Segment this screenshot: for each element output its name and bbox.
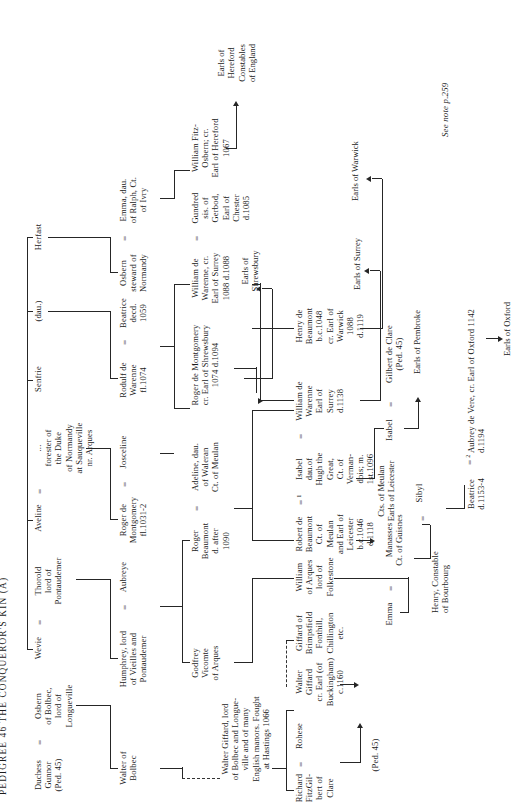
descent-line <box>76 705 110 706</box>
marriage-sign <box>419 516 427 521</box>
node-adeline-dau-of-waleran: Adeline, dau. of Waleran Ct. of Meulan <box>190 431 221 503</box>
descent-line <box>272 768 286 769</box>
node-william-de-warenne-2nd: William de Warenne Earl of Surrey d.1138 <box>294 371 345 431</box>
node-robert-de-beaumont: Robert de Beaumont Ct. of Meulan and Ear… <box>294 505 376 563</box>
descent-line <box>260 400 294 401</box>
node-senfrie: Senfrie <box>33 355 43 403</box>
node-giffard-of-brimpsfield: Giffard of Brimpsfield Fonthill, Chillin… <box>294 603 345 663</box>
outcome-earls-of-oxford: Earls of Oxford <box>502 279 512 379</box>
descent-line <box>110 658 118 659</box>
node-henry-constable-of-bourbourg: Henry, Constable of Bourbourg <box>430 513 450 613</box>
node-osbern-of-bolbec: Osbern of Bolbec, lord of Longueville <box>33 675 74 737</box>
marriage-sign <box>193 236 201 241</box>
page-title: PEDIGREE 46 THE CONQUEROR'S KIN (A) <box>0 577 8 795</box>
node-emma-dau-of-ralph: Emma, dau. of Ralph, Ct. of Ivry <box>118 167 149 233</box>
outcome-earls-of-hereford: Earls of Hereford Constables of England <box>216 23 258 103</box>
descent-line <box>160 768 182 769</box>
node-rohese: Rohese <box>294 713 304 759</box>
descent-line <box>446 508 464 509</box>
descent-line <box>374 428 384 429</box>
footnote: See note p.259 <box>440 83 450 137</box>
marriage-sign <box>297 762 305 767</box>
descent-line <box>360 727 361 763</box>
node-beatrice-d1153: Beatrice d.1153-4 <box>466 467 486 521</box>
descent-line <box>182 662 190 663</box>
descent-line <box>174 171 175 199</box>
node-richard-fitzgilbert: Richard FitzGil- bert of Clare <box>294 767 335 809</box>
outcome-line <box>382 179 383 329</box>
dashed-descent-line <box>182 778 220 779</box>
marriage-order-1: 1 <box>294 493 304 499</box>
descent-line <box>234 368 256 369</box>
descent-line <box>286 640 294 641</box>
descent-line <box>48 311 110 312</box>
marriage-sign <box>121 482 129 487</box>
descent-line <box>260 283 261 401</box>
node-walter-giffard-hastings: Walter Giffard, lord of Bolbec and Longu… <box>220 675 271 803</box>
descent-line <box>252 284 260 285</box>
node-wevie: Wevie <box>33 627 43 669</box>
outcome-line <box>372 178 382 179</box>
marriage-order-2: 2 <box>463 453 473 459</box>
descent-line <box>110 311 111 379</box>
outcome-line <box>262 288 272 289</box>
descent-line <box>174 285 175 347</box>
descent-line <box>182 541 183 663</box>
node-aubreye: Aubreye <box>118 551 128 603</box>
descent-line <box>234 662 252 663</box>
node-humphrey-of-vieilles: Humphrey, lord of Vieilles and Pontaudem… <box>118 613 149 705</box>
descent-line <box>160 453 174 454</box>
sibling-bar-g1 <box>27 237 28 650</box>
outcome-earls-of-shrewsbury: Earls of Shrewsbury <box>240 233 261 309</box>
descent-line <box>174 170 190 171</box>
descent-line <box>252 578 294 579</box>
descent-line <box>160 606 182 607</box>
outcome-line <box>380 271 381 401</box>
marriage-sign <box>121 605 129 610</box>
descent-line <box>110 237 111 273</box>
arrow-down-icon <box>258 398 263 404</box>
descent-line <box>414 558 430 559</box>
node-sibyl: Sibyl <box>414 473 424 513</box>
outcome-line <box>360 328 382 329</box>
node-isabel-of-clare: Isabel <box>384 407 394 453</box>
node-emma-of-arques: Emma <box>384 591 394 637</box>
marriage-sign-2 <box>297 434 305 439</box>
descent-line <box>160 346 174 347</box>
node-william-de-warenne-surrey: William de Warenne, cr. Earl of Surrey 1… <box>190 243 231 313</box>
marriage-sign <box>121 340 129 345</box>
node-aveline: Aveline <box>33 495 43 541</box>
node-aubrey-de-vere: Aubrey de Vere, cr. Earl of Oxford 1142 … <box>466 213 486 453</box>
descent-line <box>110 448 111 520</box>
descent-line <box>252 579 253 663</box>
stem <box>27 520 33 521</box>
descent-line <box>76 579 110 580</box>
descent-line <box>340 762 360 763</box>
arrow-up-icon <box>366 176 371 182</box>
node-duchess-gunnor: Duchess Gunnor (Ped. 45) <box>33 747 64 803</box>
arrow-down-icon <box>354 682 359 688</box>
outcome-earls-of-warwick: Earls of Warwick <box>350 123 360 219</box>
outcome-line <box>244 378 272 379</box>
descent-line <box>252 410 294 411</box>
marriage-sign <box>36 620 44 625</box>
descent-line <box>110 272 118 273</box>
stem <box>27 649 33 650</box>
outcome-line <box>236 105 237 149</box>
marriage-sign <box>36 740 44 745</box>
node-walter-of-bolbec: Walter of Bolbec <box>118 739 138 797</box>
descent-line <box>110 705 111 769</box>
node-manasses-ct-of-guisnes: Manasses Ct. of Guisnes <box>384 497 404 583</box>
arrow-up-icon <box>364 268 369 274</box>
node-roger-de-montgomery-shrewsbury: Roger de Montgomery cr. Earl of Shrewsbu… <box>190 307 221 423</box>
node-rodulf-de-warenne: Rodulf de Warenne fl.1074 <box>118 347 149 413</box>
marriage-sign-1 <box>297 500 305 505</box>
node-ped-45-ref: (Ped. 45) <box>370 725 380 785</box>
descent-line <box>422 524 430 525</box>
descent-line <box>286 710 294 711</box>
outcome-earls-of-pembroke: Earls of Pembroke <box>412 287 422 397</box>
descent-line <box>252 540 294 541</box>
arrow-right-icon <box>415 397 421 402</box>
